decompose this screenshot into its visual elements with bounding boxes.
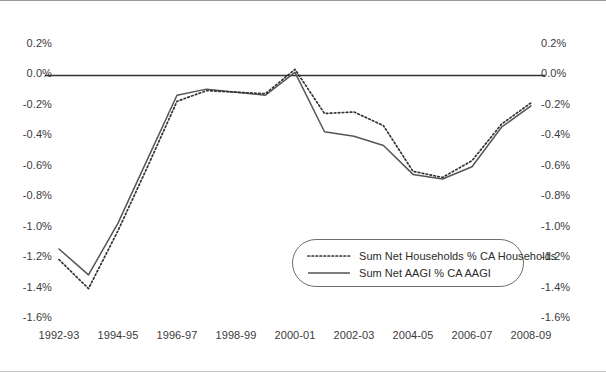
legend-label-households: Sum Net Households % CA Households [359,250,556,262]
legend-item-aagi: Sum Net AAGI % CA AAGI [307,265,491,281]
legend-label-aagi: Sum Net AAGI % CA AAGI [359,267,491,279]
chart-container: 0.2%0.0%-0.2%-0.4%-0.6%-0.8%-1.0%-1.2%-1… [0,0,606,372]
legend-swatch-dotted-icon [307,251,351,261]
legend-item-households: Sum Net Households % CA Households [307,248,556,264]
legend-swatch-solid-icon [307,268,351,278]
chart-legend: Sum Net Households % CA Households Sum N… [292,239,524,287]
plot-area [0,1,606,372]
